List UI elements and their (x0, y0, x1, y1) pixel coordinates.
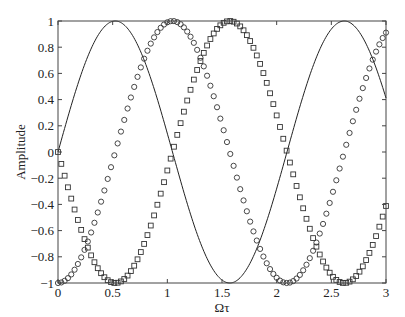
circle-marker (238, 187, 243, 192)
circle-marker (122, 117, 127, 122)
square-marker (301, 206, 306, 211)
square-marker (367, 251, 372, 256)
chart: 00.511.522.53−1−0.8−0.6−0.4−0.200.20.40.… (0, 0, 405, 317)
x-axis-label: Ωτ (215, 300, 230, 315)
circle-marker (261, 254, 266, 259)
circle-marker (324, 211, 329, 216)
circle-marker (132, 84, 137, 89)
square-marker (69, 196, 74, 201)
square-marker (138, 250, 143, 255)
circle-marker (145, 48, 150, 53)
square-marker (155, 202, 160, 207)
circle-marker (151, 35, 156, 40)
square-marker (248, 39, 253, 44)
circle-marker (198, 55, 203, 60)
circle-marker (208, 83, 213, 88)
square-marker (75, 218, 80, 223)
square-marker (264, 80, 269, 85)
y-tick-label: −0.8 (30, 249, 54, 264)
square-marker (377, 224, 382, 229)
square-marker (211, 31, 216, 36)
square-marker (235, 21, 240, 26)
circle-marker (105, 176, 110, 181)
square-marker (317, 252, 322, 257)
circle-marker (108, 165, 113, 170)
y-tick-label: 0.8 (38, 40, 54, 55)
circle-marker (350, 119, 355, 124)
circle-marker (148, 41, 153, 46)
circle-marker (118, 129, 123, 134)
circle-marker (267, 266, 272, 271)
y-tick-label: 0.6 (38, 66, 55, 81)
circle-marker (304, 262, 309, 267)
square-marker (92, 260, 97, 265)
square-marker (370, 243, 375, 248)
circle-marker (231, 163, 236, 168)
y-tick-label: −0.4 (30, 197, 54, 212)
circle-marker (218, 116, 223, 121)
square-marker (185, 98, 190, 103)
y-tick-label: 0.2 (38, 118, 54, 133)
square-marker (182, 109, 187, 114)
y-axis-label: Amplitude (13, 124, 28, 180)
circle-marker (347, 130, 352, 135)
circle-marker (228, 151, 233, 156)
circle-marker (248, 219, 253, 224)
circle-marker (244, 209, 249, 214)
square-marker (59, 161, 64, 166)
circle-marker (69, 272, 74, 277)
square-marker (195, 68, 200, 73)
square-marker (175, 132, 180, 137)
circle-marker (373, 49, 378, 54)
circle-marker (367, 66, 372, 71)
square-marker (66, 185, 71, 190)
square-marker (261, 71, 266, 76)
series-circles (55, 19, 388, 286)
square-marker (271, 102, 276, 107)
circle-marker (79, 255, 84, 260)
circle-marker (158, 25, 163, 30)
square-marker (288, 160, 293, 165)
square-marker (188, 87, 193, 92)
plot-frame (58, 21, 386, 283)
circle-marker (334, 178, 339, 183)
square-marker (62, 173, 67, 178)
x-tick-label: 2 (273, 285, 280, 300)
square-marker (168, 156, 173, 161)
square-marker (178, 121, 183, 126)
square-marker (205, 43, 210, 48)
circle-marker (327, 200, 332, 205)
square-marker (364, 258, 369, 263)
circle-marker (317, 231, 322, 236)
circle-marker (95, 210, 100, 215)
circle-marker (330, 189, 335, 194)
square-marker (135, 257, 140, 262)
circle-marker (188, 34, 193, 39)
y-tick-label: 0.4 (38, 92, 55, 107)
y-tick-label: 1 (48, 14, 55, 29)
square-marker (311, 236, 316, 241)
circle-marker (354, 107, 359, 112)
square-marker (201, 50, 206, 55)
square-marker (162, 180, 167, 185)
circle-marker (72, 267, 77, 272)
square-marker (380, 214, 385, 219)
square-marker (254, 53, 259, 58)
square-marker (165, 168, 170, 173)
circle-marker (191, 40, 196, 45)
square-marker (274, 113, 279, 118)
square-marker (307, 226, 312, 231)
x-tick-label: 0.5 (105, 285, 121, 300)
circle-marker (377, 42, 382, 47)
circle-marker (264, 261, 269, 266)
square-marker (132, 263, 137, 268)
circle-marker (214, 105, 219, 110)
circle-marker (301, 268, 306, 273)
square-marker (278, 125, 283, 130)
square-marker (152, 213, 157, 218)
circle-marker (112, 153, 117, 158)
square-marker (142, 242, 147, 247)
series-line-solid-line (58, 21, 386, 283)
circle-marker (98, 199, 103, 204)
circle-marker (344, 142, 349, 147)
